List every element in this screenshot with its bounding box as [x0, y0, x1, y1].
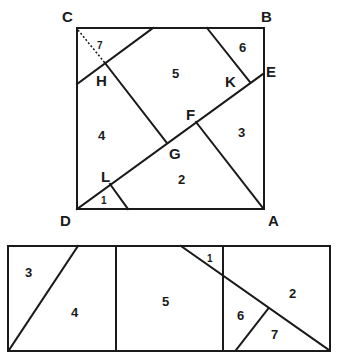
vertex-label-A: A: [268, 212, 279, 229]
line-FA: [196, 122, 263, 208]
vertex-label-K: K: [225, 73, 236, 90]
dissection-diagram: C B E D A H K F G L 1 2 3 4 5 6 7 3 4 5 …: [0, 0, 339, 362]
rect-piece-7: 7: [271, 327, 278, 342]
vertex-label-B: B: [261, 8, 272, 25]
vertex-label-H: H: [96, 72, 107, 89]
rect-piece-4: 4: [71, 305, 79, 320]
rect-piece-3: 3: [25, 265, 32, 280]
vertex-label-E: E: [266, 63, 276, 80]
square-piece-3: 3: [238, 125, 245, 140]
rect-piece-5: 5: [162, 294, 169, 309]
square-piece-7: 7: [97, 40, 103, 51]
vertex-label-D: D: [60, 212, 71, 229]
vertex-label-F: F: [186, 106, 195, 123]
line-HG: [105, 63, 167, 143]
square-piece-4: 4: [98, 128, 106, 143]
rect-piece-1: 1: [207, 253, 213, 264]
rect-diagonal-left: [9, 246, 78, 350]
rect-diagonal-right: [181, 246, 329, 350]
square-piece-6: 6: [239, 40, 246, 55]
vertex-label-L: L: [101, 168, 110, 185]
rectangle-figure: 3 4 5 1 2 6 7: [8, 246, 330, 351]
square-figure: C B E D A H K F G L 1 2 3 4 5 6 7: [60, 8, 279, 229]
rect-piece-2: 2: [289, 286, 296, 301]
rect-piece-6: 6: [237, 308, 244, 323]
square-piece-1: 1: [101, 195, 107, 206]
line-L-bottom: [110, 184, 128, 209]
square-piece-5: 5: [172, 66, 179, 81]
vertex-label-G: G: [169, 145, 181, 162]
vertex-label-C: C: [62, 8, 73, 25]
square-piece-2: 2: [178, 172, 185, 187]
